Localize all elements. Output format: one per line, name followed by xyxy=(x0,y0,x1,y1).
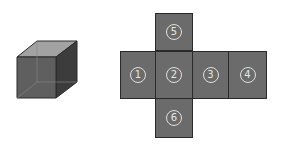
net-face-5: 5 xyxy=(155,13,193,51)
face-number-label: 5 xyxy=(166,24,182,40)
net-face-1: 1 xyxy=(120,51,156,99)
net-face-6: 6 xyxy=(155,98,193,138)
face-number-label: 4 xyxy=(240,67,256,83)
face-number-label: 6 xyxy=(166,110,182,126)
face-number-label: 2 xyxy=(166,67,182,83)
cube-figure xyxy=(0,0,100,110)
net-face-4: 4 xyxy=(228,51,267,99)
net-face-2: 2 xyxy=(155,51,193,99)
net-face-3: 3 xyxy=(192,51,229,99)
face-number-label: 3 xyxy=(203,67,219,83)
cube-front-face xyxy=(17,57,56,98)
face-number-label: 1 xyxy=(130,67,146,83)
